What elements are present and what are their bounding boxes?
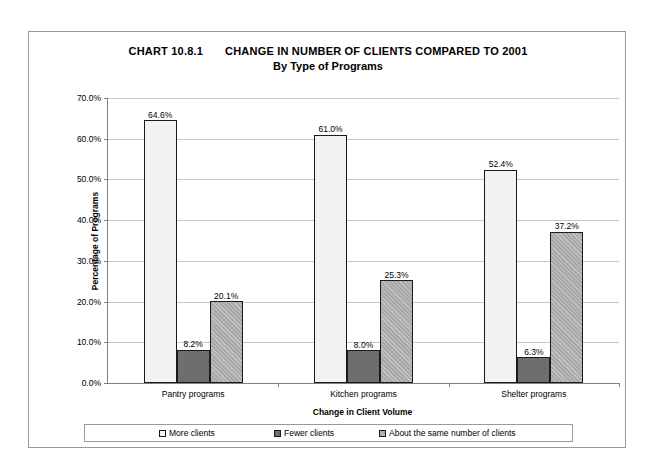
gridline xyxy=(108,98,619,99)
bar: 52.4% xyxy=(484,170,517,383)
chart-title-block: CHART 10.8.1CHANGE IN NUMBER OF CLIENTS … xyxy=(29,45,627,72)
bar-value-label: 25.3% xyxy=(384,271,408,280)
chart-legend: More clientsFewer clientsAbout the same … xyxy=(84,424,573,442)
y-axis-tick-label: 40.0% xyxy=(77,216,101,225)
chart-subtitle: By Type of Programs xyxy=(29,60,627,72)
y-axis-tick-label: 10.0% xyxy=(77,338,101,347)
chart-figure: CHART 10.8.1CHANGE IN NUMBER OF CLIENTS … xyxy=(0,0,653,473)
y-axis-tick-label: 50.0% xyxy=(77,175,101,184)
bar-value-label: 20.1% xyxy=(214,292,238,301)
legend-item[interactable]: More clients xyxy=(159,429,215,438)
gridline xyxy=(108,179,619,180)
legend-swatch-icon xyxy=(274,430,281,437)
y-axis-tick-label: 30.0% xyxy=(77,257,101,266)
bar-value-label: 61.0% xyxy=(318,125,342,134)
chart-title: CHANGE IN NUMBER OF CLIENTS COMPARED TO … xyxy=(225,45,527,57)
legend-label: About the same number of clients xyxy=(389,429,516,438)
bar: 25.3% xyxy=(380,280,413,383)
bar: 8.2% xyxy=(177,350,210,383)
x-axis-tick xyxy=(449,383,450,387)
legend-label: Fewer clients xyxy=(284,429,334,438)
bar-value-label: 37.2% xyxy=(555,222,579,231)
bar: 64.6% xyxy=(144,120,177,383)
bar-value-label: 6.3% xyxy=(524,348,543,357)
x-axis-category-label: Kitchen programs xyxy=(330,390,397,399)
legend-label: More clients xyxy=(169,429,215,438)
y-axis-tick xyxy=(104,383,108,384)
gridline xyxy=(108,302,619,303)
plot-area: Percentage of Programs 0.0%10.0%20.0%30.… xyxy=(107,98,619,384)
y-axis-tick-label: 20.0% xyxy=(77,297,101,306)
bar-value-label: 52.4% xyxy=(489,160,513,169)
bar: 8.0% xyxy=(347,350,380,383)
x-axis-tick xyxy=(278,383,279,387)
legend-item[interactable]: Fewer clients xyxy=(274,429,334,438)
x-axis-label: Change in Client Volume xyxy=(107,407,618,417)
legend-swatch-icon xyxy=(159,430,166,437)
y-axis-tick-label: 70.0% xyxy=(77,94,101,103)
x-axis-category-label: Shelter programs xyxy=(501,390,566,399)
bar: 61.0% xyxy=(314,135,347,383)
gridline xyxy=(108,220,619,221)
chart-number: CHART 10.8.1 xyxy=(129,45,204,57)
bar-value-label: 8.0% xyxy=(354,341,373,350)
x-axis-tick xyxy=(619,383,620,387)
legend-swatch-icon xyxy=(379,430,386,437)
bar: 37.2% xyxy=(550,232,583,383)
x-axis-category-label: Pantry programs xyxy=(162,390,225,399)
bar-value-label: 8.2% xyxy=(183,340,202,349)
bar: 6.3% xyxy=(517,357,550,383)
bar-value-label: 64.6% xyxy=(148,111,172,120)
y-axis-label: Percentage of Programs xyxy=(90,191,100,289)
legend-item[interactable]: About the same number of clients xyxy=(379,429,516,438)
bar: 20.1% xyxy=(210,301,243,383)
gridline xyxy=(108,261,619,262)
y-axis-tick-label: 60.0% xyxy=(77,134,101,143)
chart-title-line: CHART 10.8.1CHANGE IN NUMBER OF CLIENTS … xyxy=(29,45,627,57)
chart-frame: CHART 10.8.1CHANGE IN NUMBER OF CLIENTS … xyxy=(28,31,626,448)
gridline xyxy=(108,139,619,140)
y-axis-tick-label: 0.0% xyxy=(82,379,101,388)
